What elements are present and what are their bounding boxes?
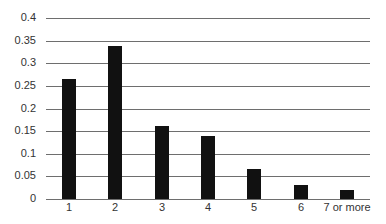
y-tick-label: 0 [0,192,36,204]
y-tick-label: 0.15 [0,124,36,136]
bar-3 [155,126,169,199]
bar-2 [108,46,122,199]
gridline [46,131,370,132]
gridline [46,199,370,200]
y-tick-label: 0.3 [0,56,36,68]
y-tick-label: 0.05 [0,169,36,181]
gridline [46,109,370,110]
y-tick-label: 0.35 [0,34,36,46]
y-tick-label: 0.1 [0,147,36,159]
gridline [46,41,370,42]
bar-1 [62,79,76,199]
y-tick-label: 0.4 [0,11,36,23]
x-tick-label: 7 or more [317,201,377,213]
bar-4 [201,136,215,199]
y-tick-label: 0.2 [0,102,36,114]
bar-5 [247,169,261,199]
bar-6 [294,185,308,199]
gridline [46,63,370,64]
bar-chart: 00.050.10.150.20.250.30.350.4 1234567 or… [0,0,386,224]
y-tick-label: 0.25 [0,79,36,91]
bar-7-or-more [340,190,354,199]
gridline [46,18,370,19]
gridline [46,86,370,87]
